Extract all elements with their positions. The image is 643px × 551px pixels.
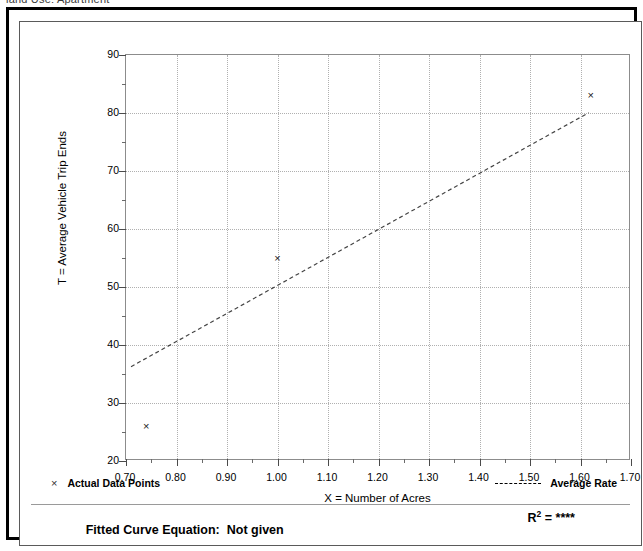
- y-tick-label: 70: [79, 164, 119, 176]
- clipped-header-text: land Use: Apartment: [0, 0, 643, 5]
- chart-outer-border: T = Average Vehicle Trip Ends ××× 203040…: [6, 7, 637, 540]
- y-tick-label: 60: [79, 222, 119, 234]
- y-tick-label: 30: [79, 396, 119, 408]
- gridline-vertical: [177, 55, 178, 459]
- legend-label-average-rate: Average Rate: [550, 477, 617, 489]
- legend-item-actual-data-points: × Actual Data Points: [51, 477, 160, 489]
- y-tick-minor: [122, 316, 126, 317]
- x-tick-major: [177, 459, 178, 466]
- y-tick-major: [119, 113, 126, 114]
- gridline-horizontal: [126, 345, 629, 346]
- x-tick-minor: [252, 459, 253, 463]
- y-axis-title: T = Average Vehicle Trip Ends: [56, 58, 68, 358]
- y-tick-minor: [122, 142, 126, 143]
- y-tick-major: [119, 229, 126, 230]
- gridline-horizontal: [126, 287, 629, 288]
- y-tick-minor: [122, 200, 126, 201]
- r-squared-label: R: [527, 511, 536, 525]
- fitted-curve-value: Not given: [227, 523, 284, 537]
- chart-page: land Use: Apartment T = Average Vehicle …: [0, 0, 643, 551]
- y-tick-label: 50: [79, 280, 119, 292]
- gridlines: [126, 55, 629, 459]
- gridline-vertical: [379, 55, 380, 459]
- r-squared-value: R2 = ****: [527, 509, 575, 525]
- data-point-marker: ×: [272, 253, 283, 264]
- x-tick-major: [126, 459, 127, 466]
- legend-label-actual-data-points: Actual Data Points: [67, 477, 160, 489]
- x-tick-minor: [606, 459, 607, 463]
- gridline-horizontal: [126, 113, 629, 114]
- x-tick-major: [429, 459, 430, 466]
- r-squared-equals: =: [545, 511, 552, 525]
- gridline-horizontal: [126, 403, 629, 404]
- x-marker-icon: ×: [51, 477, 57, 489]
- x-tick-major: [379, 459, 380, 466]
- fitted-curve-equation: Fitted Curve Equation: Not given: [51, 509, 284, 551]
- footer: Fitted Curve Equation: Not given R2 = **…: [31, 509, 631, 539]
- gridline-horizontal: [126, 171, 629, 172]
- gridline-vertical: [227, 55, 228, 459]
- x-tick-minor: [454, 459, 455, 463]
- plot-area: ×××: [125, 54, 630, 460]
- x-tick-major: [581, 459, 582, 466]
- y-tick-label: 90: [79, 48, 119, 60]
- legend: × Actual Data Points Average Rate: [31, 477, 631, 505]
- y-tick-major: [119, 403, 126, 404]
- gridline-vertical: [328, 55, 329, 459]
- x-tick-minor: [404, 459, 405, 463]
- x-tick-minor: [505, 459, 506, 463]
- x-tick-major: [278, 459, 279, 466]
- y-tick-label: 40: [79, 338, 119, 350]
- data-point-marker: ×: [585, 90, 596, 101]
- fitted-curve-label: Fitted Curve Equation:: [86, 523, 220, 537]
- legend-item-average-rate: Average Rate: [495, 477, 617, 489]
- y-tick-minor: [122, 374, 126, 375]
- x-tick-major: [530, 459, 531, 466]
- gridline-vertical: [429, 55, 430, 459]
- y-tick-label: 80: [79, 106, 119, 118]
- gridline-vertical: [480, 55, 481, 459]
- data-point-marker: ×: [141, 421, 152, 432]
- footer-divider: [31, 504, 630, 505]
- r-squared-exponent: 2: [537, 509, 542, 519]
- chart-inner-border: T = Average Vehicle Trip Ends ××× 203040…: [19, 21, 642, 546]
- gridline-horizontal: [126, 229, 629, 230]
- y-tick-minor: [122, 432, 126, 433]
- r-squared-stars: ****: [556, 511, 575, 525]
- x-tick-minor: [303, 459, 304, 463]
- y-tick-label: 20: [79, 454, 119, 466]
- x-tick-minor: [151, 459, 152, 463]
- x-tick-minor: [555, 459, 556, 463]
- x-tick-major: [227, 459, 228, 466]
- x-tick-major: [631, 459, 632, 466]
- y-tick-minor: [122, 84, 126, 85]
- x-tick-minor: [202, 459, 203, 463]
- gridline-vertical: [581, 55, 582, 459]
- x-tick-major: [328, 459, 329, 466]
- y-tick-major: [119, 461, 126, 462]
- y-tick-major: [119, 171, 126, 172]
- x-tick-minor: [353, 459, 354, 463]
- dashed-line-icon: [495, 483, 541, 484]
- y-tick-major: [119, 55, 126, 56]
- x-tick-major: [480, 459, 481, 466]
- gridline-vertical: [530, 55, 531, 459]
- y-tick-major: [119, 287, 126, 288]
- y-tick-major: [119, 345, 126, 346]
- y-tick-minor: [122, 258, 126, 259]
